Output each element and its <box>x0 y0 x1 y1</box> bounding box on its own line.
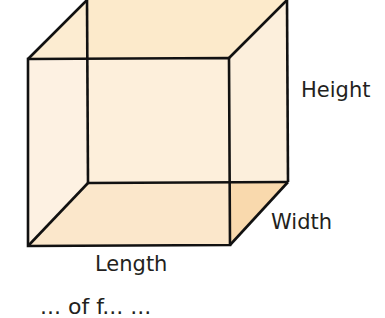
back-bottom-edge <box>88 182 288 183</box>
back-left-edge <box>87 0 88 183</box>
back-right-edge <box>287 0 288 182</box>
cropped-caption: ... of f... ... <box>40 296 151 318</box>
width-label: Width <box>271 212 332 233</box>
height-label: Height <box>301 80 370 101</box>
length-label: Length <box>95 254 167 275</box>
front-face <box>28 58 230 246</box>
